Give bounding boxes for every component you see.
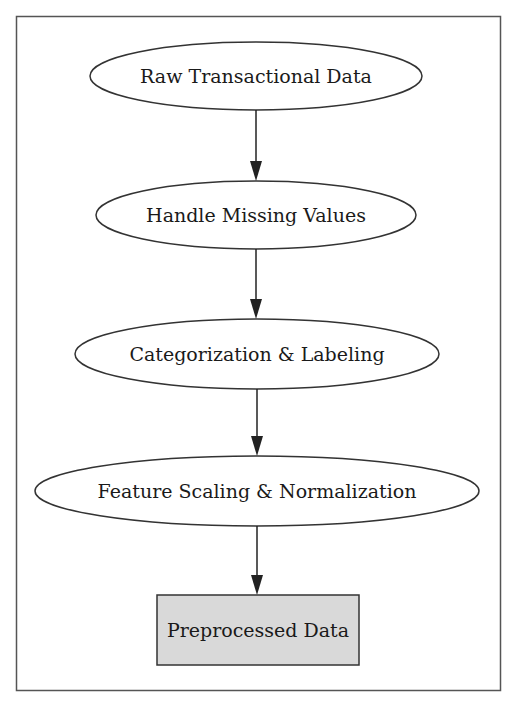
node-label: Categorization & Labeling xyxy=(129,343,384,365)
flowchart-canvas: Raw Transactional Data Handle Missing Va… xyxy=(0,0,514,708)
node-raw-transactional-data: Raw Transactional Data xyxy=(90,42,422,110)
node-label: Handle Missing Values xyxy=(146,204,366,226)
node-feature-scaling-normalization: Feature Scaling & Normalization xyxy=(35,456,479,526)
node-label: Preprocessed Data xyxy=(167,619,349,641)
node-preprocessed-data: Preprocessed Data xyxy=(157,595,359,665)
node-categorization-labeling: Categorization & Labeling xyxy=(75,319,439,389)
node-label: Raw Transactional Data xyxy=(140,65,372,87)
node-label: Feature Scaling & Normalization xyxy=(98,480,417,502)
node-handle-missing-values: Handle Missing Values xyxy=(96,181,416,249)
